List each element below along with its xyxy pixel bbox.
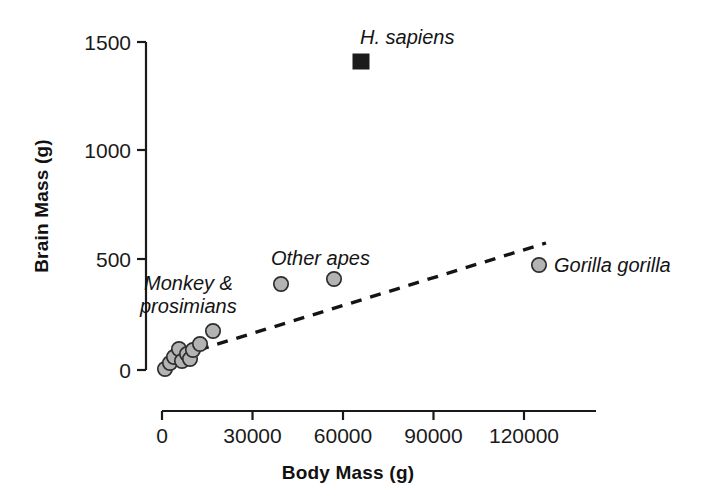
label-monkey-prosimians-line1: Monkey & — [144, 272, 233, 294]
data-point — [193, 337, 207, 351]
label-other-apes: Other apes — [271, 247, 370, 269]
label-h-sapiens: H. sapiens — [360, 26, 455, 48]
x-axis-title: Body Mass (g) — [282, 462, 414, 483]
data-point — [327, 272, 341, 286]
x-tick-label-60000: 60000 — [314, 424, 372, 447]
label-gorilla-gorilla: Gorilla gorilla — [554, 254, 671, 276]
x-tick-label-90000: 90000 — [404, 424, 462, 447]
series-h-sapiens — [353, 54, 369, 69]
plot-canvas: 1500 1000 500 0 Brain Mass (g) 0 30000 6… — [0, 0, 712, 498]
data-point — [274, 277, 288, 291]
y-axis: 1500 1000 500 0 Brain Mass (g) — [31, 31, 146, 382]
y-tick-label-0: 0 — [119, 359, 131, 382]
data-point-square — [353, 54, 369, 69]
x-axis: 0 30000 60000 90000 120000 Body Mass (g) — [156, 411, 596, 483]
y-tick-label-1000: 1000 — [84, 139, 131, 162]
y-tick-label-500: 500 — [96, 248, 131, 271]
y-axis-title: Brain Mass (g) — [31, 139, 52, 273]
x-tick-label-120000: 120000 — [489, 424, 559, 447]
series-gorilla-gorilla — [532, 258, 546, 272]
x-tick-label-0: 0 — [156, 424, 168, 447]
series-monkey-prosimians — [158, 324, 220, 376]
scatter-plot-figure: 1500 1000 500 0 Brain Mass (g) 0 30000 6… — [0, 0, 712, 498]
x-tick-label-30000: 30000 — [223, 424, 281, 447]
label-monkey-prosimians-line2: prosimians — [139, 295, 237, 317]
series-other-apes — [274, 272, 341, 291]
data-point — [532, 258, 546, 272]
data-point — [206, 324, 220, 338]
y-tick-label-1500: 1500 — [84, 31, 131, 54]
